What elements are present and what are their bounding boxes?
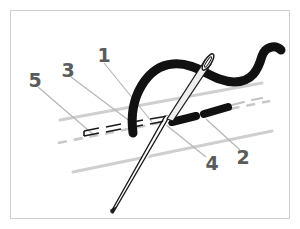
diagram-canvas: 1 2 3 4 5 bbox=[0, 0, 300, 229]
sewing-stitch-diagram: 1 2 3 4 5 bbox=[0, 0, 300, 229]
callout-label-2: 2 bbox=[236, 146, 249, 168]
figure-border bbox=[11, 11, 290, 219]
callout-label-4: 4 bbox=[205, 152, 218, 174]
callout-label-5: 5 bbox=[28, 69, 41, 91]
callout-label-1: 1 bbox=[97, 44, 110, 66]
callout-label-3: 3 bbox=[61, 59, 74, 81]
